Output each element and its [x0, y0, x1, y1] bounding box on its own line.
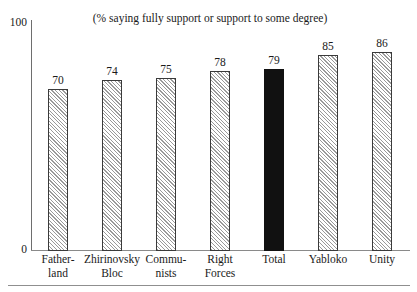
- bar-value-communists: 75: [160, 63, 172, 76]
- category-label-line-1: Unity: [349, 253, 415, 267]
- bar-slot-yabloko: 85: [301, 20, 355, 251]
- bar-slot-fatherland: 70: [31, 20, 85, 251]
- category-axis: Father- land Zhirinovsky Bloc Commu- nis…: [31, 253, 410, 285]
- bar-fatherland[interactable]: [48, 89, 68, 251]
- bar-slot-total: 79: [247, 20, 301, 251]
- bar-slot-right-forces: 78: [193, 20, 247, 251]
- footer-divider: [8, 285, 410, 286]
- bar-chart-figure: (% saying fully support or support to so…: [0, 0, 417, 292]
- bar-slot-zhirinovsky-bloc: 74: [85, 20, 139, 251]
- bar-value-yabloko: 85: [322, 40, 334, 53]
- bar-value-total: 79: [268, 54, 280, 67]
- bar-value-zhirinovsky-bloc: 74: [106, 65, 118, 78]
- bar-slot-communists: 75: [139, 20, 193, 251]
- category-label-unity: Unity: [349, 253, 415, 267]
- bar-yabloko[interactable]: [318, 55, 338, 251]
- y-axis-tick-100: 100: [2, 16, 27, 29]
- bar-value-unity: 86: [376, 37, 388, 50]
- bar-value-fatherland: 70: [52, 74, 64, 87]
- plot-area: 70 74 75 78 79 85 86: [31, 20, 410, 251]
- bar-unity[interactable]: [372, 52, 392, 251]
- bar-communists[interactable]: [156, 78, 176, 251]
- bar-value-right-forces: 78: [214, 56, 226, 69]
- bar-right-forces[interactable]: [210, 71, 230, 251]
- bar-zhirinovsky-bloc[interactable]: [102, 80, 122, 251]
- bar-slot-unity: 86: [355, 20, 409, 251]
- bar-total[interactable]: [264, 69, 284, 251]
- category-label-line-2: Forces: [187, 267, 253, 281]
- y-axis-tick-0: 0: [2, 243, 27, 256]
